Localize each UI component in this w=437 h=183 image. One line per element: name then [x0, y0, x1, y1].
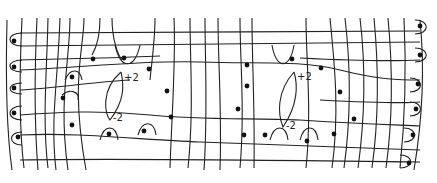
lens-left: +2 -2 — [106, 72, 139, 123]
lens-right-bottom-label: -2 — [286, 120, 296, 131]
strand-diagram: +2 -2 +2 -2 — [0, 0, 437, 183]
lens-left-bottom-label: -2 — [113, 112, 123, 123]
lens-right-top-label: +2 — [297, 71, 312, 82]
lens-right: +2 -2 — [280, 71, 312, 131]
diagram-canvas: +2 -2 +2 -2 — [0, 0, 437, 183]
vertical-strands — [6, 18, 422, 170]
lens-left-top-label: +2 — [124, 72, 139, 83]
